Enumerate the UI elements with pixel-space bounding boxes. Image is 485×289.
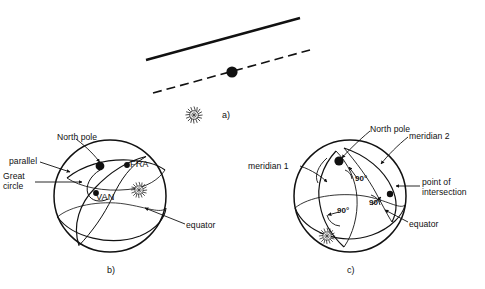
panel-a-label: a) xyxy=(222,110,230,120)
label-meridian-1: meridian 1 xyxy=(248,161,289,171)
label-north-pole-b: North pole xyxy=(57,132,97,142)
pole-band-arc xyxy=(316,158,327,183)
label-great-circle-line1: Great xyxy=(3,171,25,181)
equator-leader-b xyxy=(145,208,185,224)
label-angle-top: 90° xyxy=(355,174,367,184)
label-meridian-2: meridian 2 xyxy=(409,131,450,141)
label-north-pole-c: North pole xyxy=(370,124,410,134)
meridian2-front xyxy=(344,148,396,222)
parallel-leader-b xyxy=(40,162,70,172)
north-pole-dot xyxy=(96,162,105,171)
label-point-of-intersection-line1: point of xyxy=(422,177,451,187)
label-great-circle-line2: circle xyxy=(3,181,23,191)
panel-b-label: b) xyxy=(107,265,115,275)
equator-curve-c xyxy=(295,205,405,239)
label-van: VAN xyxy=(96,192,114,202)
star-burst-icon xyxy=(131,182,147,198)
label-angle-bottom: 90° xyxy=(337,206,349,216)
meridian2-leader-c xyxy=(381,137,408,164)
panel-c-graphics xyxy=(294,131,420,252)
label-equator-b: equator xyxy=(186,220,216,230)
label-angle-right: 90° xyxy=(369,198,381,208)
black-dot xyxy=(226,66,237,77)
intersection-point-dot xyxy=(387,191,393,197)
panel-a-graphics xyxy=(146,18,310,124)
figure-canvas xyxy=(0,0,485,289)
star-burst-icon xyxy=(185,106,202,123)
solid-line xyxy=(146,18,300,60)
figure-root: a) North pole parallel Great circle FRA … xyxy=(0,0,485,289)
label-parallel-b: parallel xyxy=(9,156,37,166)
panel-c-label: c) xyxy=(347,265,355,275)
label-equator-c: equator xyxy=(409,219,439,229)
label-fra: FRA xyxy=(130,159,149,169)
north-pole-leader-c xyxy=(342,131,370,158)
parallel-curve xyxy=(67,160,165,178)
angle-arc-bottom xyxy=(327,215,340,226)
star-burst-icon xyxy=(319,228,335,244)
parallel-curve-back xyxy=(67,170,165,190)
label-point-of-intersection-line2: intersection xyxy=(422,187,467,197)
meridian1-leader-c xyxy=(300,166,327,182)
